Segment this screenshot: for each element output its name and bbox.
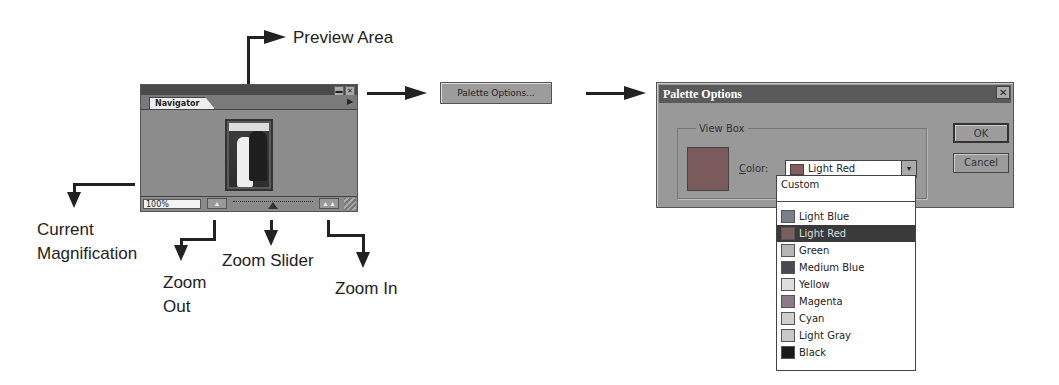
magnification-callout-line [73, 183, 135, 186]
zoom-slider[interactable] [233, 198, 313, 210]
dropdown-item-custom[interactable]: Custom [777, 176, 915, 202]
palette-menu-icon[interactable]: ▶ [345, 97, 355, 107]
color-swatch [781, 244, 795, 257]
dropdown-item[interactable]: Yellow [777, 276, 915, 293]
callout-text: Current [37, 219, 137, 240]
color-swatch [781, 295, 795, 308]
dropdown-item[interactable]: Green [777, 242, 915, 259]
arrow-down-icon [67, 192, 81, 208]
callout-zoom-slider: Zoom Slider [222, 250, 314, 271]
zoom-out-callout-line [180, 238, 216, 241]
color-dropdown-list: Custom Light Blue Light Red Green Medium… [776, 175, 916, 371]
callout-zoom-out: Zoom Out [163, 272, 206, 317]
preview-thumbnail [229, 123, 269, 187]
selected-color-value: Light Red [808, 163, 855, 174]
callout-zoom-in: Zoom In [335, 278, 397, 299]
cancel-button[interactable]: Cancel [953, 153, 1009, 173]
tab-navigator[interactable]: Navigator [149, 97, 215, 109]
color-swatch [781, 312, 795, 325]
flow-arrow-line [586, 92, 626, 95]
dialog-title: Palette Options [659, 85, 1011, 103]
arrow-right-icon [624, 86, 646, 100]
palette-title-bar[interactable]: ▬ ✕ [141, 85, 357, 95]
resize-grip-icon[interactable] [344, 198, 356, 210]
zoom-in-callout-line [362, 234, 365, 254]
color-swatch [781, 261, 795, 274]
color-swatch [781, 227, 795, 240]
color-swatch [781, 329, 795, 342]
palette-bottom-bar: 100% ▲ ▲▲ [141, 196, 357, 211]
palette-options-button[interactable]: Palette Options... [440, 82, 552, 104]
arrow-right-icon [405, 86, 427, 100]
color-swatch [781, 278, 795, 291]
dropdown-item[interactable]: Black [777, 344, 915, 361]
arrow-down-icon [356, 252, 370, 268]
photo-figure [249, 131, 267, 181]
preview-area[interactable] [225, 119, 273, 191]
item-label: Black [799, 344, 826, 361]
zoom-out-button[interactable]: ▲ [207, 198, 227, 209]
ok-button[interactable]: OK [953, 123, 1009, 143]
palette-tab-row: Navigator ▶ [141, 95, 357, 110]
callout-text: Out [163, 296, 206, 317]
slider-thumb[interactable] [268, 202, 278, 209]
arrow-down-icon [264, 230, 278, 246]
close-icon[interactable]: ✕ [996, 86, 1010, 99]
arrow-right-icon [264, 30, 286, 44]
selected-color-swatch [790, 164, 804, 175]
dropdown-item[interactable]: Light Gray [777, 327, 915, 344]
dropdown-item[interactable]: Cyan [777, 310, 915, 327]
zoom-in-button[interactable]: ▲▲ [319, 198, 339, 209]
color-swatch [781, 210, 795, 223]
item-label: Magenta [799, 293, 843, 310]
color-label-text: olor: [746, 163, 768, 174]
magnification-field[interactable]: 100% [143, 199, 201, 209]
color-label: Color: [739, 163, 768, 174]
zoom-out-callout-line [213, 220, 216, 240]
dropdown-item[interactable]: Magenta [777, 293, 915, 310]
dropdown-item[interactable]: Light Blue [777, 208, 915, 225]
arrow-down-icon [174, 245, 188, 261]
dropdown-item[interactable]: Medium Blue [777, 259, 915, 276]
zoom-in-callout-line [327, 234, 365, 237]
item-label: Yellow [799, 276, 830, 293]
item-label: Light Gray [799, 327, 851, 344]
dropdown-items: Light Blue Light Red Green Medium Blue Y… [777, 208, 915, 361]
view-box-label: View Box [696, 123, 748, 134]
callout-current-magnification: Current Magnification [37, 219, 137, 264]
item-label: Medium Blue [799, 259, 864, 276]
callout-preview-area: Preview Area [293, 27, 393, 48]
item-label: Cyan [799, 310, 824, 327]
navigator-palette: ▬ ✕ Navigator ▶ 100% ▲ ▲▲ [140, 84, 358, 212]
dropdown-item[interactable]: Light Red [777, 225, 915, 242]
item-label: Green [799, 242, 829, 259]
callout-text: Zoom [163, 272, 206, 293]
callout-text: Magnification [37, 243, 137, 264]
flow-arrow-line [367, 92, 407, 95]
accelerator-key: C [739, 163, 746, 174]
color-swatch [781, 346, 795, 359]
item-label: Light Blue [799, 208, 849, 225]
item-label: Light Red [799, 225, 846, 242]
color-preview-swatch [687, 147, 729, 191]
